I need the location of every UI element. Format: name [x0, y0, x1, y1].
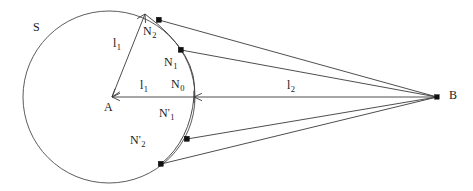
label-n1-prime-text: N: [159, 106, 168, 120]
label-n0-sub: 0: [180, 83, 184, 93]
label-n2-prime-text: N: [130, 133, 139, 147]
diagram-canvas: [0, 0, 473, 191]
label-point-a: A: [104, 101, 113, 113]
label-n1-prime-sub: 1: [170, 112, 174, 122]
label-n1: N1: [164, 56, 177, 68]
ray-b-to-n2-prime: [161, 97, 437, 164]
marker-n1-prime: [184, 136, 189, 141]
label-distance-outer-sub: 2: [291, 84, 295, 94]
label-n2-prime-sub: 2: [141, 139, 145, 149]
label-n0-text: N: [171, 77, 180, 91]
label-n0: N0: [171, 78, 184, 90]
label-n1-text: N: [164, 55, 173, 69]
marker-n2: [156, 17, 161, 22]
label-distance-outer-text: l: [287, 78, 290, 92]
marker-n2-prime: [158, 161, 163, 166]
label-n1-sub: 1: [173, 61, 177, 71]
label-radius-slanted-sub: 1: [117, 42, 121, 52]
arrowhead-radius-base: [112, 89, 120, 97]
label-n2-text: N: [143, 24, 152, 38]
label-radius-horizontal: l1: [140, 79, 148, 91]
label-point-b: B: [449, 89, 457, 101]
label-radius-slanted-text: l: [113, 36, 116, 50]
label-distance-outer: l2: [287, 79, 295, 91]
ray-b-to-n1-prime: [187, 97, 437, 139]
label-radius-horizontal-sub: 1: [144, 84, 148, 94]
label-radius-slanted: l1: [113, 37, 121, 49]
geometry-diagram: S A B l1 l1 l2 N0 N1 N2 N'1 N'2: [0, 0, 473, 191]
label-radius-horizontal-text: l: [140, 78, 143, 92]
label-n2: N2: [143, 25, 156, 37]
marker-b: [435, 95, 440, 100]
label-n1-prime: N'1: [159, 107, 174, 119]
label-circle-s: S: [33, 21, 40, 33]
label-n2-prime: N'2: [130, 134, 145, 146]
ray-b-to-n1: [181, 50, 437, 97]
label-n2-sub: 2: [152, 30, 156, 40]
ray-b-to-n2: [159, 20, 437, 97]
marker-n1: [178, 47, 183, 52]
